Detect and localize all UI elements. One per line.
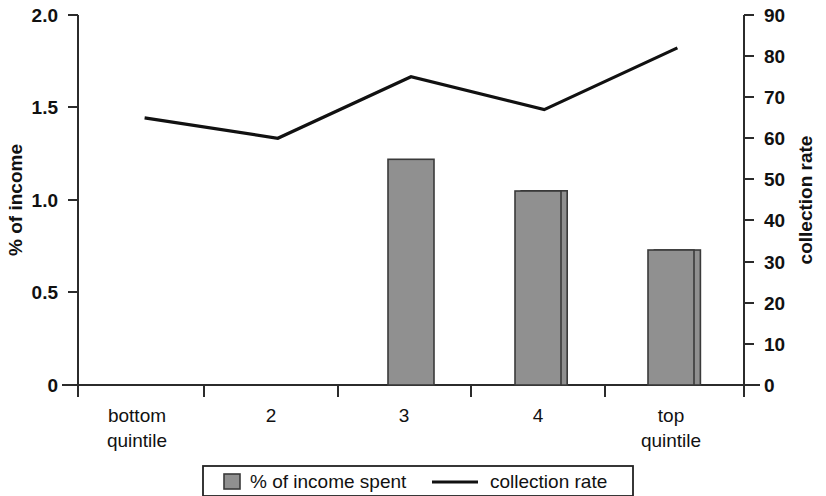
collection-rate-line [145,48,678,138]
left-tick-label-0: 0 [47,375,58,396]
right-tick-label-90: 90 [764,5,785,26]
right-tick-label-60: 60 [764,128,785,149]
left-axis-title: % of income [5,144,26,256]
category-label-1-line-1: bottom [108,405,166,426]
category-label-4: 4 [533,405,544,426]
right-tick-label-80: 80 [764,46,785,67]
category-label-2: 2 [266,405,277,426]
left-tick-label-1.0: 1.0 [32,190,58,211]
left-tick-label-1.5: 1.5 [32,97,59,118]
chart-legend: % of income spent collection rate [203,466,633,496]
bar-4 [515,191,561,385]
right-tick-label-50: 50 [764,169,785,190]
bar-top-quintile [648,250,694,385]
right-tick-label-40: 40 [764,210,785,231]
category-label-1-line-2: quintile [107,430,167,451]
legend-label-bars: % of income spent [250,471,407,492]
bar-bottom-quintile [388,159,434,385]
category-label-3: 3 [399,405,410,426]
right-tick-label-20: 20 [764,293,785,314]
right-tick-label-70: 70 [764,87,785,108]
left-tick-label-2.0: 2.0 [32,5,58,26]
legend-swatch-bar-icon [224,474,240,489]
chart-container: 2.0 1.5 1.0 0.5 0 % of income 90 80 70 6… [0,0,826,496]
right-axis-ticks [744,15,760,385]
left-axis-ticks [62,15,78,385]
right-tick-label-10: 10 [764,334,785,355]
x-axis-ticks [78,385,744,397]
right-tick-label-0: 0 [764,375,775,396]
legend-label-line: collection rate [490,471,607,492]
bar-series [388,159,700,385]
category-label-5-line-2: quintile [641,430,701,451]
right-axis-title: collection rate [795,136,816,265]
category-label-5-line-1: top [658,405,684,426]
left-tick-label-0.5: 0.5 [32,282,59,303]
category-labels: bottom quintile 2 3 4 top quintile [107,405,701,451]
bar-line-combo-chart: 2.0 1.5 1.0 0.5 0 % of income 90 80 70 6… [0,0,826,496]
right-tick-label-30: 30 [764,252,785,273]
